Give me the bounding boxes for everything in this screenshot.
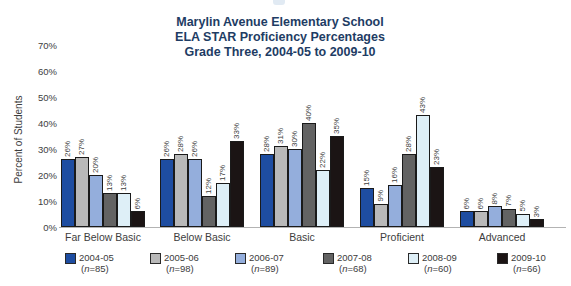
bar-2009-10-proficient	[430, 167, 444, 227]
bar-value-label: 15%	[362, 170, 372, 186]
bar-2004-05-basic	[260, 154, 274, 227]
y-tick-30: 30%	[25, 144, 57, 155]
legend-n-count: (n=66)	[511, 263, 546, 274]
bar-value-label: 12%	[204, 178, 214, 194]
bar-2004-05-below-basic	[160, 159, 174, 227]
bar-2008-09-far-below-basic	[117, 193, 131, 227]
bar-2005-06-advanced	[474, 211, 488, 227]
bar-2008-09-advanced	[516, 214, 530, 227]
bar-2007-08-advanced	[502, 209, 516, 227]
bar-value-label: 28%	[262, 136, 272, 152]
bar-2006-07-proficient	[388, 185, 402, 227]
legend-n-count: (n=60)	[422, 263, 457, 274]
x-axis-baseline	[59, 227, 566, 228]
bar-2005-06-basic	[274, 146, 288, 227]
bar-value-label: 6%	[133, 198, 143, 210]
bar-value-label-wrap: 28%	[260, 124, 274, 152]
bar-value-label: 26%	[162, 141, 172, 157]
bar-2004-05-far-below-basic	[61, 159, 75, 227]
legend-item-2008-09: 2008-09(n=60)	[408, 252, 457, 274]
y-tick-50: 50%	[25, 92, 57, 103]
y-tick-60: 60%	[25, 66, 57, 77]
bar-value-label: 31%	[276, 128, 286, 144]
bar-value-label-wrap: 33%	[230, 111, 244, 139]
legend-item-2007-08: 2007-08(n=68)	[323, 252, 372, 274]
legend-year: 2005-06	[164, 252, 199, 263]
bar-2007-08-proficient	[402, 154, 416, 227]
bar-value-label: 3%	[532, 206, 542, 218]
legend-label-2004-05: 2004-05(n=85)	[79, 252, 114, 274]
legend-n-count: (n=89)	[249, 263, 284, 274]
legend-year: 2009-10	[511, 252, 546, 263]
legend-year: 2004-05	[79, 252, 114, 263]
bar-value-label: 43%	[418, 97, 428, 113]
legend-swatch-2005-06	[150, 253, 161, 264]
legend-label-2007-08: 2007-08(n=68)	[337, 252, 372, 274]
bar-value-label: 13%	[119, 175, 129, 191]
bar-value-label-wrap: 13%	[103, 163, 117, 191]
bar-2005-06-far-below-basic	[75, 157, 89, 227]
legend-swatch-2006-07	[235, 253, 246, 264]
legend-swatch-2007-08	[323, 253, 334, 264]
legend-n-count: (n=98)	[164, 263, 199, 274]
chart-title-line-1: Marylin Avenue Elementary School	[105, 15, 455, 30]
legend-label-2008-09: 2008-09(n=60)	[422, 252, 457, 274]
bar-2008-09-below-basic	[216, 183, 230, 227]
bar-value-label-wrap: 30%	[288, 119, 302, 147]
bar-value-label: 6%	[462, 198, 472, 210]
bar-value-label: 20%	[91, 157, 101, 173]
bar-2006-07-advanced	[488, 206, 502, 227]
bar-value-label: 9%	[376, 190, 386, 202]
bar-value-label: 17%	[218, 165, 228, 181]
bar-value-label-wrap: 31%	[274, 116, 288, 144]
bar-value-label-wrap: 43%	[416, 85, 430, 113]
bar-2009-10-advanced	[530, 219, 544, 227]
legend-year: 2008-09	[422, 252, 457, 263]
bar-2007-08-far-below-basic	[103, 193, 117, 227]
legend-item-2009-10: 2009-10(n=66)	[497, 252, 546, 274]
bar-2008-09-proficient	[416, 115, 430, 227]
bar-value-label-wrap: 13%	[117, 163, 131, 191]
legend-n-count: (n=85)	[79, 263, 114, 274]
bar-2006-07-far-below-basic	[89, 175, 103, 227]
bar-value-label: 8%	[490, 193, 500, 205]
y-tick-40: 40%	[25, 118, 57, 129]
bar-value-label-wrap: 26%	[61, 129, 75, 157]
bar-value-label-wrap: 26%	[188, 129, 202, 157]
bar-value-label-wrap: 6%	[131, 181, 145, 209]
bar-value-label: 30%	[290, 131, 300, 147]
bar-value-label: 27%	[77, 139, 87, 155]
legend-year: 2007-08	[337, 252, 372, 263]
legend-item-2004-05: 2004-05(n=85)	[65, 252, 114, 274]
y-axis-title: Percent of Students	[13, 85, 24, 195]
y-tick-20: 20%	[25, 170, 57, 181]
bar-2009-10-far-below-basic	[131, 211, 145, 227]
bar-value-label: 22%	[318, 152, 328, 168]
bar-2005-06-below-basic	[174, 154, 188, 227]
bar-value-label-wrap: 28%	[402, 124, 416, 152]
bar-value-label-wrap: 12%	[202, 166, 216, 194]
legend-item-2005-06: 2005-06(n=98)	[150, 252, 199, 274]
legend-label-2009-10: 2009-10(n=66)	[511, 252, 546, 274]
bar-value-label: 16%	[390, 167, 400, 183]
bar-2007-08-basic	[302, 123, 316, 227]
bar-value-label-wrap: 35%	[330, 106, 344, 134]
bar-2008-09-basic	[316, 170, 330, 227]
bar-value-label-wrap: 8%	[488, 176, 502, 204]
bar-value-label: 13%	[105, 175, 115, 191]
y-tick-10: 10%	[25, 196, 57, 207]
bar-value-label-wrap: 26%	[160, 129, 174, 157]
bar-value-label: 33%	[232, 123, 242, 139]
bar-2009-10-basic	[330, 136, 344, 227]
legend-label-2005-06: 2005-06(n=98)	[164, 252, 199, 274]
legend-item-2006-07: 2006-07(n=89)	[235, 252, 284, 274]
bar-value-label: 28%	[176, 136, 186, 152]
bar-2007-08-below-basic	[202, 196, 216, 227]
bar-value-label-wrap: 28%	[174, 124, 188, 152]
bar-value-label: 7%	[504, 195, 514, 207]
category-label-advanced: Advanced	[442, 231, 562, 243]
cropped-page-artifact	[273, 0, 285, 5]
legend-label-2006-07: 2006-07(n=89)	[249, 252, 284, 274]
bar-value-label-wrap: 40%	[302, 93, 316, 121]
bar-value-label: 26%	[190, 141, 200, 157]
